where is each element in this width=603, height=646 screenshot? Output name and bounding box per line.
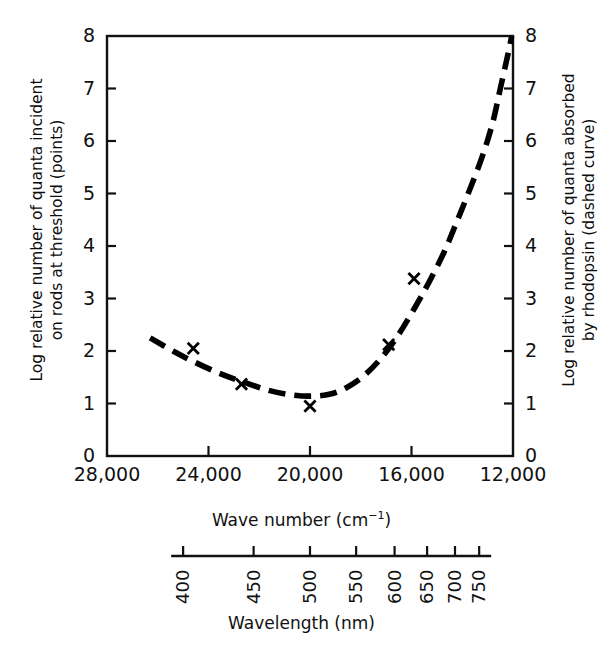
data-point-marker-x <box>304 401 315 412</box>
y-axis-right-tick-label: 1 <box>525 392 537 414</box>
x-axis-ticks <box>209 446 412 456</box>
y-axis-left-tick-label: 7 <box>83 77 95 99</box>
y-axis-right-ticks <box>504 89 513 404</box>
wavelength-tick-label: 650 <box>416 570 437 604</box>
y-axis-left-title-line1: Log relative number of quanta incident <box>27 20 47 440</box>
y-axis-left-tick-label: 2 <box>83 339 95 361</box>
y-axis-right-tick-label: 3 <box>525 287 537 309</box>
x-axis-tick-label: 28,000 <box>74 463 140 485</box>
y-axis-right-tick-label: 8 <box>525 24 537 46</box>
y-axis-right-tick-label: 2 <box>525 339 537 361</box>
wavelength-axis <box>171 546 491 556</box>
data-point-marker-x <box>188 343 199 354</box>
y-axis-right-title: Log relative number of quanta absorbed b… <box>559 20 599 440</box>
y-axis-left-tick-label: 3 <box>83 287 95 309</box>
chart-plot-area: 012345678 012345678 28,00024,00020,00016… <box>0 0 603 646</box>
y-axis-left-tick-label: 8 <box>83 24 95 46</box>
x-axis-tick-label: 20,000 <box>277 463 343 485</box>
x-axis-title-text: Wave number (cm <box>212 510 368 530</box>
wavelength-tick-label: 500 <box>299 570 320 604</box>
plot-frame <box>107 36 513 456</box>
wavelength-tick-label: 400 <box>172 570 193 604</box>
rhodopsin-absorption-curve <box>150 36 512 396</box>
wavelength-tick-label: 550 <box>345 570 366 604</box>
x-axis-tick-label: 16,000 <box>378 463 444 485</box>
wavelength-axis-title: Wavelength (nm) <box>0 613 603 633</box>
x-axis-title-superscript: −1 <box>368 509 384 522</box>
y-axis-right-title-line2: by rhodopsin (dashed curve) <box>579 20 599 440</box>
y-axis-right-title-line1: Log relative number of quanta absorbed <box>559 20 579 440</box>
y-axis-left-tick-labels: 012345678 <box>83 24 95 466</box>
x-axis-title: Wave number (cm−1) <box>0 509 603 530</box>
wavelength-tick-label: 450 <box>243 570 264 604</box>
figure-container: Log relative number of quanta incident o… <box>0 0 603 646</box>
y-axis-right-tick-label: 5 <box>525 182 537 204</box>
y-axis-right-tick-labels: 012345678 <box>525 24 537 466</box>
y-axis-left-ticks <box>107 89 116 404</box>
threshold-data-points <box>188 273 420 412</box>
y-axis-left-tick-label: 6 <box>83 129 95 151</box>
x-axis-tick-labels: 28,00024,00020,00016,00012,000 <box>74 463 546 485</box>
y-axis-left-tick-label: 1 <box>83 392 95 414</box>
wavelength-tick-label: 750 <box>468 570 489 604</box>
y-axis-left-tick-label: 5 <box>83 182 95 204</box>
wavelength-tick-labels: 400450500550600650700750 <box>172 570 489 604</box>
wavelength-tick-label: 700 <box>444 570 465 604</box>
y-axis-right-tick-label: 6 <box>525 129 537 151</box>
y-axis-right-tick-label: 7 <box>525 77 537 99</box>
data-point-marker-x <box>408 273 419 284</box>
x-axis-title-close-paren: ) <box>384 510 391 530</box>
y-axis-right-tick-label: 4 <box>525 234 537 256</box>
y-axis-left-title-line2: on rods at threshold (points) <box>47 20 67 440</box>
y-axis-left-tick-label: 4 <box>83 234 95 256</box>
x-axis-tick-label: 24,000 <box>175 463 241 485</box>
wavelength-tick-label: 600 <box>384 570 405 604</box>
y-axis-left-title: Log relative number of quanta incident o… <box>27 20 67 440</box>
x-axis-tick-label: 12,000 <box>480 463 546 485</box>
